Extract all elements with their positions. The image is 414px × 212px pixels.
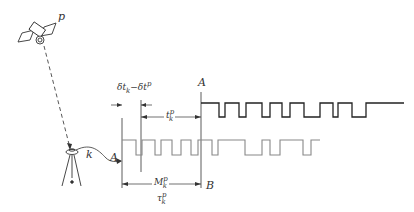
diagram-canvas: p k A A B δtk−δtp tpk Mpk τpk xyxy=(0,0,414,212)
receiver-label: k xyxy=(86,149,93,160)
satellite-label: p xyxy=(58,11,65,22)
satellite-icon xyxy=(18,22,56,44)
point-a-right-label: A xyxy=(198,77,206,88)
code-shift-label: Mpk xyxy=(152,176,169,190)
replica-code-waveform xyxy=(122,140,320,155)
signal-path-dashed xyxy=(44,46,70,148)
clock-offset-label: δtk−δtp xyxy=(117,81,151,95)
travel-time-label: tpk xyxy=(164,109,175,123)
point-a-left-label: A xyxy=(110,152,118,163)
point-b-label: B xyxy=(206,180,214,191)
receiver-tripod-icon xyxy=(62,149,81,186)
satellite-code-waveform xyxy=(201,103,404,117)
tau-label: τpk xyxy=(157,192,166,206)
